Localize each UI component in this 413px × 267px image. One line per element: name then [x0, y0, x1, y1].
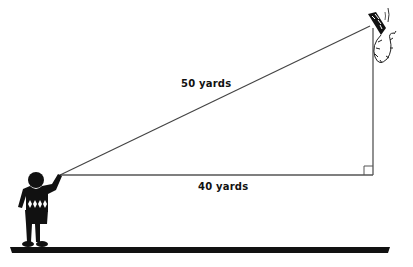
base-label: 40 yards — [198, 181, 248, 192]
kite-icon — [368, 8, 389, 35]
kite-diagram — [0, 0, 413, 267]
ground-line — [10, 247, 390, 253]
kite-string-line — [58, 26, 370, 176]
kite-tail-icon — [374, 31, 396, 63]
boy-figure-icon — [18, 172, 62, 247]
hypotenuse-label: 50 yards — [181, 78, 231, 89]
right-angle-marker — [364, 166, 373, 175]
